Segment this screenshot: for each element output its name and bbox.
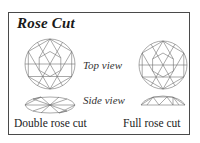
full-rose-cut-top-view-icon xyxy=(135,38,191,92)
diagram-title: Rose Cut xyxy=(17,15,75,32)
double-rose-cut-top-view-icon xyxy=(22,36,78,92)
side-view-label: Side view xyxy=(83,94,125,106)
double-rose-cut-label: Double rose cut xyxy=(14,117,87,129)
full-rose-cut-label: Full rose cut xyxy=(123,117,181,129)
full-rose-cut-side-view-icon xyxy=(140,92,186,106)
top-view-label: Top view xyxy=(83,59,122,71)
double-rose-cut-side-view-icon xyxy=(24,96,76,114)
